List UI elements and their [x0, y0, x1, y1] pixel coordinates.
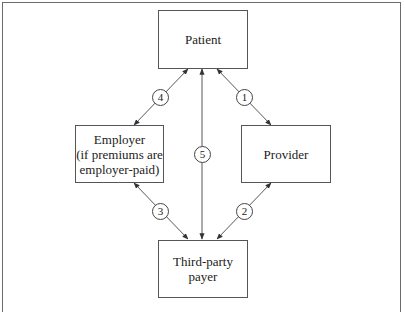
node-third-party-payer: Third-party payer: [158, 240, 248, 298]
node-employer-line-3: employer-paid): [76, 162, 163, 177]
edge-badge-1: 1: [236, 89, 253, 106]
edge-badge-5: 5: [194, 146, 211, 163]
node-payer-line-2: payer: [173, 269, 233, 284]
node-patient: Patient: [158, 10, 248, 69]
node-patient-label: Patient: [185, 32, 221, 47]
edge-badge-2: 2: [236, 203, 253, 220]
node-employer-line-1: Employer: [76, 132, 163, 147]
edge-badge-3: 3: [152, 203, 169, 220]
edge-badge-4: 4: [152, 89, 169, 106]
node-employer: Employer (if premiums are employer-paid): [75, 125, 164, 183]
node-provider: Provider: [241, 125, 331, 183]
node-employer-line-2: (if premiums are: [76, 147, 163, 162]
node-payer-line-1: Third-party: [173, 254, 233, 269]
node-provider-label: Provider: [264, 147, 309, 162]
